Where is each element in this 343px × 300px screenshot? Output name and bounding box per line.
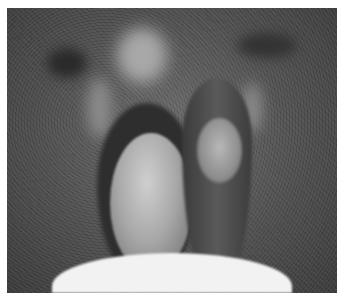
small-oval-structure bbox=[197, 118, 242, 183]
light-patch-top bbox=[117, 28, 167, 83]
dark-shadow-left bbox=[47, 48, 87, 78]
swelling-mass bbox=[110, 133, 192, 273]
photograph bbox=[7, 8, 337, 293]
dark-shadow-right bbox=[237, 33, 297, 58]
crease-left bbox=[87, 78, 112, 138]
